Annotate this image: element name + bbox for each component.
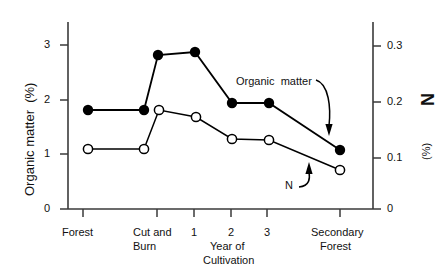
annotation-organic-matter-label: Organic matter	[236, 75, 312, 87]
y-tick-label-right-03: 0.3	[387, 39, 402, 51]
x-tick-label-cut-and-burn-line2: Burn	[133, 240, 156, 252]
data-point-nitrogen	[154, 105, 163, 114]
y-tick-label-right-01: 0.1	[387, 151, 402, 163]
x-tick-label-secondary-forest-line1: Secondary	[311, 226, 364, 238]
series-nitrogen	[83, 105, 344, 174]
data-point-nitrogen	[264, 135, 273, 144]
x-tick-label-year-2: 2	[228, 226, 234, 238]
y-axis-ticks-right	[373, 46, 381, 209]
data-point-organic-matter	[264, 98, 274, 108]
data-point-nitrogen	[139, 144, 148, 153]
series-nitrogen-line	[88, 110, 340, 170]
y-tick-label-left-1: 1	[44, 147, 50, 159]
data-point-nitrogen	[191, 112, 200, 121]
data-point-organic-matter	[153, 50, 163, 60]
y-axis-ticks-left	[60, 45, 68, 209]
y-axis-title-right: N	[418, 93, 439, 106]
data-point-organic-matter	[139, 105, 149, 115]
data-point-organic-matter	[227, 98, 237, 108]
data-point-organic-matter	[190, 47, 200, 57]
x-tick-label-year-1: 1	[191, 226, 197, 238]
data-point-nitrogen	[335, 165, 344, 174]
data-point-nitrogen	[227, 134, 236, 143]
y-axis-title-right-units: (%)	[420, 143, 432, 160]
chart-figure: 3 2 1 0 0.3 0.2 0.1 0 Organic matter (%)…	[0, 0, 442, 271]
y-tick-label-right-02: 0.2	[387, 95, 402, 107]
x-axis-ticks	[83, 209, 340, 217]
x-axis-title-line1: Year of	[210, 240, 244, 252]
y-axis-title-left: Organic matter (%)	[22, 83, 37, 196]
x-tick-label-forest: Forest	[62, 226, 93, 238]
data-point-nitrogen	[83, 144, 92, 153]
y-tick-label-left-3: 3	[44, 38, 50, 50]
annotation-nitrogen-label: N	[285, 179, 293, 191]
series-organic-matter-line	[88, 52, 340, 150]
x-tick-label-cut-and-burn-line1: Cut and	[133, 226, 172, 238]
series-organic-matter	[83, 47, 345, 155]
y-tick-label-left-2: 2	[44, 93, 50, 105]
y-tick-label-left-0: 0	[44, 202, 50, 214]
data-point-organic-matter	[83, 105, 93, 115]
y-tick-label-right-0: 0	[387, 202, 393, 214]
annotation-arrow-nitrogen	[299, 162, 313, 187]
data-point-organic-matter	[335, 145, 345, 155]
x-axis-title-line2: Cultivation	[203, 254, 254, 266]
x-tick-label-year-3: 3	[264, 226, 270, 238]
annotation-arrow-organic-matter	[316, 80, 333, 136]
x-tick-label-secondary-forest-line2: Forest	[320, 240, 351, 252]
